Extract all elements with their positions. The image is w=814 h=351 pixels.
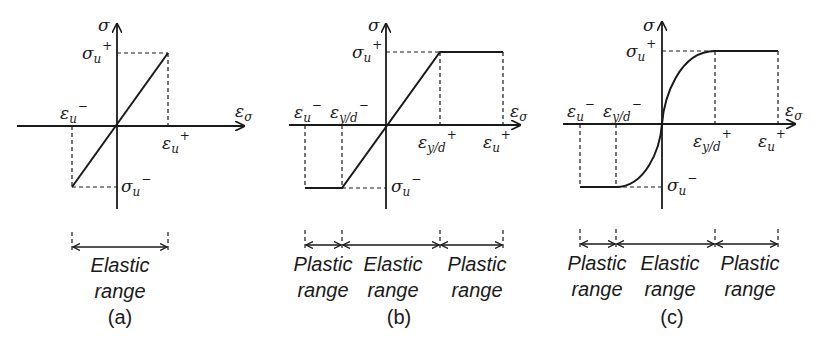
sigma-u-plus-label: σu+ <box>352 44 381 61</box>
sigma-symbol: σ <box>643 15 655 35</box>
sigma-symbol: σ <box>121 176 133 196</box>
sigma-symbol: σ <box>667 175 679 195</box>
sub-yd: y/d <box>702 140 721 154</box>
plastic-label-left: Plastic <box>557 253 637 273</box>
range-label: range <box>80 281 160 301</box>
eps-u-minus-label: εu− <box>60 105 87 122</box>
plastic-label-left: Plastic <box>283 254 363 274</box>
sup-minus: − <box>312 98 322 112</box>
sup-plus: + <box>646 37 656 51</box>
sup-minus: − <box>411 172 421 186</box>
sub-sigma: σ <box>794 109 802 123</box>
eps-sigma-axis-label: εσ <box>785 102 802 119</box>
range-label-mid: range <box>353 280 433 300</box>
sigma-symbol: σ <box>98 15 110 35</box>
eps-u-plus-label: εu+ <box>758 133 785 150</box>
sub-yd: y/d <box>427 141 446 155</box>
guide-lines <box>305 52 503 248</box>
eps-symbol: ε <box>483 132 492 152</box>
sup-plus: + <box>776 127 786 141</box>
sigma-axis-label: σ <box>368 17 380 34</box>
sigma-symbol: σ <box>352 42 364 62</box>
eps-u-plus-label: εu+ <box>483 134 510 151</box>
sub-u: u <box>767 140 775 154</box>
sup-minus: − <box>687 171 697 185</box>
eps-yd-plus-label: εy/d+ <box>693 133 731 150</box>
sigma-axis-label: σ <box>98 17 110 34</box>
caption-c: (c) <box>652 307 692 327</box>
sup-plus: + <box>372 38 382 52</box>
caption-a: (a) <box>100 307 140 327</box>
sup-minus: − <box>78 99 88 113</box>
eps-yd-minus-label: εy/d− <box>330 104 368 121</box>
sigma-symbol: σ <box>82 43 94 63</box>
eps-symbol: ε <box>60 103 69 123</box>
sub-yd: y/d <box>612 110 631 124</box>
sigma-symbol: σ <box>626 41 638 61</box>
sub-u: u <box>492 141 500 155</box>
sub-u: u <box>171 142 179 156</box>
eps-symbol: ε <box>603 101 612 121</box>
eps-symbol: ε <box>418 132 427 152</box>
eps-u-minus-label: εu− <box>294 104 321 121</box>
sub-u: u <box>638 50 646 64</box>
guide-lines <box>580 51 778 247</box>
eps-u-plus-label: εu+ <box>162 135 189 152</box>
sub-sigma: σ <box>244 110 252 124</box>
sub-u: u <box>133 185 141 199</box>
sigma-u-plus-label: σu+ <box>626 43 655 60</box>
range-label-mid: range <box>630 279 710 299</box>
sub-u: u <box>364 51 372 65</box>
eps-symbol: ε <box>162 133 171 153</box>
eps-symbol: ε <box>330 102 339 122</box>
elastic-label: Elastic <box>630 253 710 273</box>
sup-plus: + <box>447 128 457 142</box>
range-label-left: range <box>557 279 637 299</box>
eps-symbol: ε <box>785 100 794 120</box>
eps-symbol: ε <box>510 101 519 121</box>
sup-minus: − <box>632 97 642 111</box>
sup-plus: + <box>180 129 190 143</box>
sup-minus: − <box>359 98 369 112</box>
sigma-symbol: σ <box>368 15 380 35</box>
sup-minus: − <box>141 172 151 186</box>
sigma-axis-label: σ <box>643 17 655 34</box>
range-label-right: range <box>710 279 790 299</box>
sigma-u-minus-label: σu− <box>121 178 150 195</box>
sub-u: u <box>69 112 77 126</box>
sigma-u-minus-label: σu− <box>391 178 420 195</box>
sub-u: u <box>576 110 584 124</box>
eps-symbol: ε <box>758 131 767 151</box>
eps-symbol: ε <box>235 101 244 121</box>
sigma-u-plus-label: σu+ <box>82 45 111 62</box>
eps-u-minus-label: εu− <box>567 103 594 120</box>
range-label-right: range <box>437 280 517 300</box>
plastic-label-right: Plastic <box>710 253 790 273</box>
caption-b: (b) <box>379 307 419 327</box>
sub-u: u <box>679 184 687 198</box>
eps-symbol: ε <box>567 101 576 121</box>
eps-symbol: ε <box>294 102 303 122</box>
sup-plus: + <box>102 39 112 53</box>
sup-minus: − <box>585 97 595 111</box>
sub-sigma: σ <box>519 110 527 124</box>
elastic-label: Elastic <box>80 255 160 275</box>
sigma-u-minus-label: σu− <box>667 177 696 194</box>
sub-yd: y/d <box>339 111 358 125</box>
sub-u: u <box>403 185 411 199</box>
sup-plus: + <box>501 128 511 142</box>
elastic-label: Elastic <box>353 254 433 274</box>
panel-a <box>17 24 244 250</box>
sup-plus: + <box>722 127 732 141</box>
sigma-symbol: σ <box>391 176 403 196</box>
eps-symbol: ε <box>693 131 702 151</box>
eps-yd-plus-label: εy/d+ <box>418 134 456 151</box>
eps-yd-minus-label: εy/d− <box>603 103 641 120</box>
plastic-label-right: Plastic <box>437 254 517 274</box>
range-label-left: range <box>283 280 363 300</box>
eps-sigma-axis-label: εσ <box>510 103 527 120</box>
eps-sigma-axis-label: εσ <box>235 103 252 120</box>
sub-u: u <box>303 111 311 125</box>
guide-lines <box>72 53 168 250</box>
sub-u: u <box>94 52 102 66</box>
